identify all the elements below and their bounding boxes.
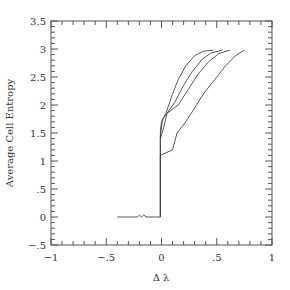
- x-tick-label: .5: [212, 252, 222, 263]
- line-chart: −1−.50.51 −.50.511.522.533.5 Δ λ Average…: [0, 0, 290, 290]
- x-tick-label: 1: [269, 252, 275, 263]
- y-tick-label: 0: [40, 212, 46, 223]
- plot-frame: [51, 21, 272, 245]
- y-tick-label: 1.5: [30, 128, 46, 139]
- series-curve-1: [117, 50, 213, 217]
- series-curve-3: [160, 50, 230, 217]
- x-tick-label: −.5: [97, 252, 115, 263]
- y-tick-label: 3: [40, 44, 46, 55]
- x-tick-label: 0: [158, 252, 164, 263]
- plot-border: [51, 21, 272, 245]
- y-tick-label: .5: [36, 184, 46, 195]
- y-axis-label: Average Cell Entropy: [4, 78, 15, 188]
- series-curve-4: [160, 50, 244, 217]
- y-tick-label: 2: [40, 100, 46, 111]
- y-tick-labels: −.50.511.522.533.5: [28, 16, 46, 251]
- x-axis-label: Δ λ: [153, 272, 170, 283]
- axis-ticks: [51, 21, 272, 245]
- x-tick-labels: −1−.50.51: [44, 252, 276, 263]
- data-series: [117, 50, 244, 217]
- series-curve-2: [160, 50, 222, 217]
- y-tick-label: 2.5: [30, 72, 46, 83]
- x-tick-label: −1: [44, 252, 59, 263]
- y-tick-label: −.5: [28, 240, 46, 251]
- y-tick-label: 3.5: [30, 16, 46, 27]
- y-tick-label: 1: [40, 156, 46, 167]
